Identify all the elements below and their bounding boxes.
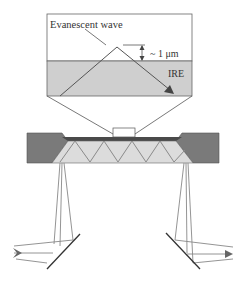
beam-line [193, 259, 233, 263]
zoom-line-left [47, 96, 113, 134]
input-optics [14, 163, 73, 263]
sample-box [113, 128, 135, 137]
mirror-left [47, 234, 80, 269]
atr-accessory [27, 128, 219, 163]
beam-line [16, 259, 47, 263]
output-optics [175, 163, 233, 263]
beam-line [54, 163, 60, 244]
sample-contact-strip [62, 137, 182, 141]
beam-line [60, 163, 62, 246]
ire-label: IRE [168, 68, 184, 79]
depth-label: ~ 1 μm [150, 48, 179, 59]
beam-line [175, 163, 184, 240]
evanescent-wave-label: Evanescent wave [50, 19, 123, 30]
beam-line [64, 163, 73, 240]
output-arrow-icon [225, 250, 233, 258]
beam-line [14, 240, 73, 246]
beam-line [186, 163, 187, 253]
mirror-right [166, 233, 200, 269]
inset-view: Evanescent wave ~ 1 μm IRE [47, 14, 192, 96]
zoom-line-right [135, 96, 192, 134]
beam-line [175, 240, 233, 247]
beam-line [188, 163, 193, 263]
atr-diagram: Evanescent wave ~ 1 μm IRE [0, 0, 246, 288]
